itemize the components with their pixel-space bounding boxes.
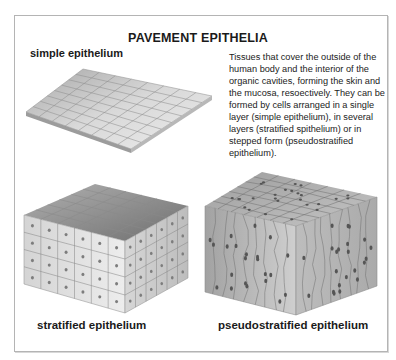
label-stratified-epithelium: stratified epithelium: [37, 319, 146, 331]
pseudostratified-epithelium-illustration: [0, 0, 396, 360]
label-pseudostratified-epithelium: pseudostratified epithelium: [218, 319, 368, 331]
